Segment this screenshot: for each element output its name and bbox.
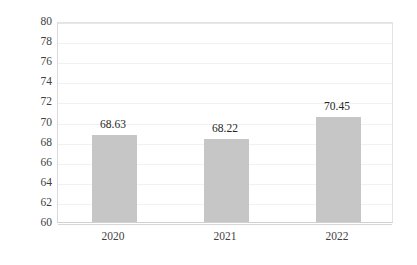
gridline (58, 224, 392, 225)
y-axis: 8078767472706866646260 (12, 0, 52, 265)
bar-data-label: 68.63 (100, 119, 126, 131)
y-axis-tick-label: 62 (18, 197, 52, 209)
y-axis-tick-label: 64 (18, 177, 52, 189)
y-axis-tick-label: 76 (18, 56, 52, 68)
x-axis-tick-label: 2022 (326, 231, 349, 243)
bar (92, 135, 137, 222)
bar-chart: 8078767472706866646260 68.6368.2270.45 2… (0, 0, 417, 265)
y-axis-tick-label: 78 (18, 36, 52, 48)
y-axis-tick-label: 72 (18, 97, 52, 109)
y-axis-tick-label: 60 (18, 217, 52, 229)
bar-data-label: 70.45 (324, 101, 350, 113)
y-axis-tick-label: 68 (18, 137, 52, 149)
bar (204, 139, 249, 222)
bar (316, 117, 361, 222)
y-axis-tick-label: 74 (18, 77, 52, 89)
bar-data-label: 68.22 (212, 123, 238, 135)
y-axis-tick-label: 70 (18, 117, 52, 129)
x-axis-tick-label: 2020 (102, 231, 125, 243)
y-axis-tick-label: 80 (18, 16, 52, 28)
x-axis: 202020212022 (57, 231, 393, 249)
y-axis-tick-label: 66 (18, 157, 52, 169)
x-axis-tick-label: 2021 (214, 231, 237, 243)
